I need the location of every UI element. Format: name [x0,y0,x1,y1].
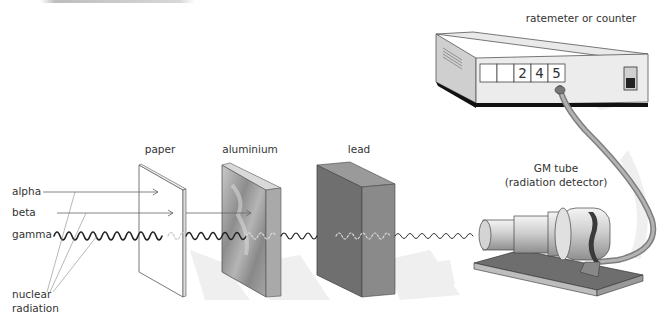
gm-tube-label: GM tube [534,162,578,175]
gm-tube [474,208,643,296]
gamma-label: gamma [12,228,52,241]
aluminium-label: aluminium [222,143,278,156]
counter-digit-3: 2 [514,64,531,82]
counter-digits: 2 4 5 [480,64,565,82]
cable-plug [555,86,565,94]
lead-block [317,162,395,297]
nuclear-radiation-label-line2: radiation [12,302,59,315]
counter-digit-4: 4 [531,64,548,82]
lead-label: lead [348,143,370,156]
counter-label: ratemeter or counter [526,12,637,25]
nuclear-radiation-label-line1: nuclear [12,288,51,301]
power-switch[interactable] [624,67,637,90]
gamma-wave-segment-4 [395,234,473,239]
alpha-label: alpha [12,185,41,198]
counter-digit-5: 5 [548,64,565,82]
gm-tube-sublabel: (radiation detector) [505,176,608,189]
radiation-diagram [0,0,668,319]
top-rule [40,0,195,3]
counter-digit-1 [480,64,497,82]
aluminium-block [222,163,281,297]
gamma-wave-segment-3 [281,233,317,239]
nuclear-radiation-pointers [47,192,97,292]
beta-label: beta [12,206,36,219]
counter-digit-2 [497,64,514,82]
paper-label: paper [145,143,176,156]
paper-sheet [139,164,186,297]
